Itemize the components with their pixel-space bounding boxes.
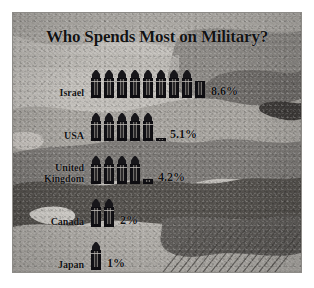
bullet-icon: [117, 113, 127, 141]
row-value-israel: 8.6%: [211, 84, 238, 100]
chart-title: Who Spends Most on Military?: [13, 27, 301, 47]
bullet-icon: [143, 70, 153, 98]
row-label-israel: Israel: [13, 88, 91, 101]
row-label-japan: Japan: [13, 260, 91, 273]
bullet-icon: [104, 199, 114, 227]
row-label-canada: Canada: [13, 217, 91, 230]
bullet-icon: [182, 70, 192, 98]
bullet-group-usa: [91, 113, 164, 143]
row-label-line: United: [13, 163, 84, 174]
bullet-icon: [104, 70, 114, 98]
bullet-icon-partial: [156, 138, 164, 141]
bullet-icon-partial: [195, 81, 205, 98]
chart-row-israel: Israel 8.6%: [13, 57, 301, 100]
bullet-icon: [117, 70, 127, 98]
row-label-united-kingdom: United Kingdom: [13, 163, 91, 186]
military-spending-pictogram-chart: Who Spends Most on Military? Israel 8.6%: [13, 13, 301, 272]
bullet-group-japan: [91, 242, 101, 272]
chart-rows: Israel 8.6% USA: [13, 57, 301, 272]
row-label-line: Kingdom: [13, 174, 84, 185]
bullet-icon: [91, 199, 101, 227]
row-value-usa: 5.1%: [170, 127, 197, 143]
bullet-icon: [117, 156, 127, 184]
bullet-icon: [130, 70, 140, 98]
bullet-icon-partial: [143, 179, 152, 184]
bullet-icon: [156, 70, 166, 98]
bullet-group-canada: [91, 199, 114, 229]
bullet-icon: [169, 70, 179, 98]
bullet-icon: [91, 70, 101, 98]
bullet-icon: [91, 242, 101, 270]
chart-row-united-kingdom: United Kingdom 4.2%: [13, 143, 301, 186]
chart-row-japan: Japan 1%: [13, 229, 301, 272]
row-label-line: Israel: [13, 88, 84, 99]
bullet-icon: [130, 113, 140, 141]
bullet-icon: [130, 156, 140, 184]
row-value-canada: 2%: [120, 213, 138, 229]
row-label-line: Japan: [13, 260, 84, 271]
chart-row-usa: USA 5.1%: [13, 100, 301, 143]
row-label-line: USA: [13, 131, 84, 142]
row-value-united-kingdom: 4.2%: [158, 170, 185, 186]
bullet-icon: [91, 156, 101, 184]
row-label-line: Canada: [13, 217, 84, 228]
chart-row-canada: Canada 2%: [13, 186, 301, 229]
row-value-japan: 1%: [107, 256, 125, 272]
row-label-usa: USA: [13, 131, 91, 144]
bullet-icon: [143, 113, 153, 141]
bullet-icon: [104, 156, 114, 184]
bullet-icon: [91, 113, 101, 141]
bullet-group-united-kingdom: [91, 156, 152, 186]
bullet-icon: [104, 113, 114, 141]
bullet-group-israel: [91, 70, 205, 100]
